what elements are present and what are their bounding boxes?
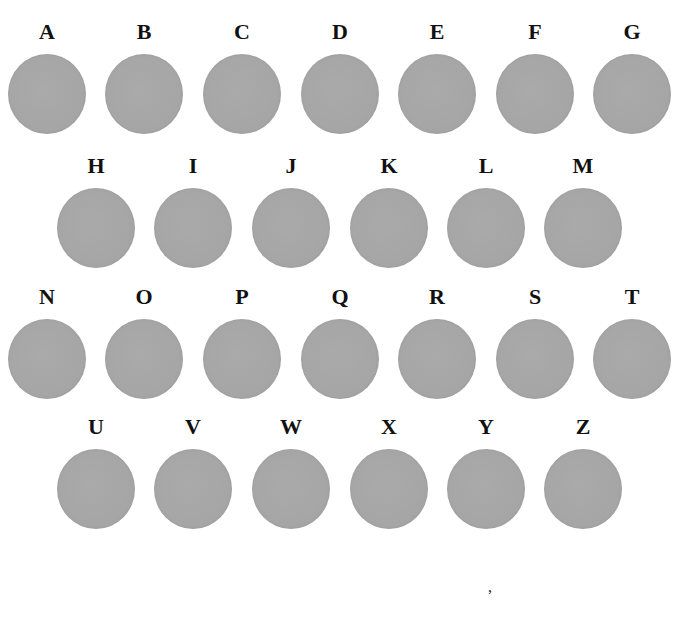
gray-disc: [203, 319, 281, 399]
disc-label: H: [56, 154, 136, 178]
gray-disc: [447, 188, 525, 268]
disc-label: J: [251, 154, 331, 178]
disc-item-y: Y: [446, 415, 526, 525]
disc-item-v: V: [153, 415, 233, 525]
disc-item-a: A: [7, 20, 87, 130]
gray-disc: [301, 319, 379, 399]
disc-label: P: [202, 285, 282, 309]
disc-item-k: K: [349, 154, 429, 264]
disc-label: M: [543, 154, 623, 178]
disc-item-i: I: [153, 154, 233, 264]
disc-item-b: B: [104, 20, 184, 130]
disc-item-n: N: [7, 285, 87, 395]
disc-label: L: [446, 154, 526, 178]
disc-label: A: [7, 20, 87, 44]
disc-item-p: P: [202, 285, 282, 395]
disc-label: O: [104, 285, 184, 309]
disc-item-c: C: [202, 20, 282, 130]
disc-item-q: Q: [300, 285, 380, 395]
gray-disc: [252, 188, 330, 268]
gray-disc: [105, 54, 183, 134]
gray-disc: [350, 449, 428, 529]
stray-comma-mark: ,: [488, 578, 492, 596]
disc-item-g: G: [592, 20, 672, 130]
gray-disc: [57, 449, 135, 529]
disc-item-u: U: [56, 415, 136, 525]
gray-disc: [593, 319, 671, 399]
disc-label: Y: [446, 415, 526, 439]
disc-label: I: [153, 154, 233, 178]
disc-label: R: [397, 285, 477, 309]
disc-label: E: [397, 20, 477, 44]
disc-label: S: [495, 285, 575, 309]
gray-disc: [496, 319, 574, 399]
gray-disc: [105, 319, 183, 399]
gray-disc: [544, 449, 622, 529]
disc-item-t: T: [592, 285, 672, 395]
gray-disc: [447, 449, 525, 529]
disc-item-j: J: [251, 154, 331, 264]
gray-disc: [496, 54, 574, 134]
disc-label: V: [153, 415, 233, 439]
disc-label: T: [592, 285, 672, 309]
disc-item-e: E: [397, 20, 477, 130]
gray-disc: [154, 449, 232, 529]
disc-item-l: L: [446, 154, 526, 264]
gray-disc: [8, 54, 86, 134]
disc-item-f: F: [495, 20, 575, 130]
disc-item-d: D: [300, 20, 380, 130]
gray-disc: [57, 188, 135, 268]
gray-disc: [398, 319, 476, 399]
disc-label: F: [495, 20, 575, 44]
disc-item-s: S: [495, 285, 575, 395]
disc-item-o: O: [104, 285, 184, 395]
gray-disc: [203, 54, 281, 134]
disc-label: W: [251, 415, 331, 439]
disc-item-z: Z: [543, 415, 623, 525]
disc-label: Q: [300, 285, 380, 309]
gray-disc: [544, 188, 622, 268]
disc-item-x: X: [349, 415, 429, 525]
gray-disc: [252, 449, 330, 529]
disc-label: U: [56, 415, 136, 439]
disc-label: N: [7, 285, 87, 309]
disc-label: K: [349, 154, 429, 178]
disc-label: Z: [543, 415, 623, 439]
disc-label: C: [202, 20, 282, 44]
disc-label: B: [104, 20, 184, 44]
gray-disc: [350, 188, 428, 268]
gray-disc: [301, 54, 379, 134]
disc-label: G: [592, 20, 672, 44]
gray-disc: [8, 319, 86, 399]
gray-disc: [593, 54, 671, 134]
gray-disc: [398, 54, 476, 134]
disc-item-w: W: [251, 415, 331, 525]
gray-disc: [154, 188, 232, 268]
disc-label: D: [300, 20, 380, 44]
disc-label: X: [349, 415, 429, 439]
disc-item-h: H: [56, 154, 136, 264]
disc-item-m: M: [543, 154, 623, 264]
disc-item-r: R: [397, 285, 477, 395]
